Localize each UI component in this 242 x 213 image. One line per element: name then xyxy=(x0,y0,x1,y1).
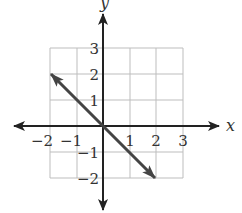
axes xyxy=(14,14,219,210)
svg-text:−2: −2 xyxy=(31,132,53,150)
svg-text:1: 1 xyxy=(89,92,99,110)
svg-text:3: 3 xyxy=(89,40,99,58)
svg-text:−1: −1 xyxy=(77,144,99,162)
x-axis-label: x xyxy=(226,116,235,135)
svg-text:2: 2 xyxy=(151,132,161,150)
y-axis-label: y xyxy=(99,0,110,12)
svg-text:3: 3 xyxy=(178,132,188,150)
grid xyxy=(50,48,183,178)
svg-text:1: 1 xyxy=(125,132,135,150)
svg-text:2: 2 xyxy=(89,66,99,84)
coordinate-plane: −2 −1 1 2 3 3 2 1 −1 −2 x y xyxy=(0,0,242,213)
y-tick-labels: 3 2 1 −1 −2 xyxy=(77,40,99,188)
x-tick-labels: −2 −1 1 2 3 xyxy=(31,132,188,150)
svg-text:−2: −2 xyxy=(77,170,99,188)
